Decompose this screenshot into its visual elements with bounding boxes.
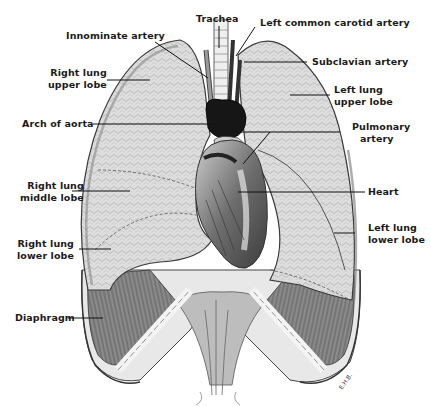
label-left-lung-lower-lobe: Left lung lower lobe <box>368 222 425 246</box>
label-pulmonary-artery: Pulmonary artery <box>352 121 410 145</box>
label-diaphragm: Diaphragm <box>15 312 75 324</box>
artist-signature: E.H.B. <box>337 372 353 391</box>
label-heart: Heart <box>368 186 399 198</box>
label-right-lung-middle-lobe: Right lung middle lobe <box>20 180 84 204</box>
label-trachea: Trachea <box>196 13 238 25</box>
label-subclavian-artery: Subclavian artery <box>312 56 408 68</box>
anatomy-figure: E.H.B. Trachea Left common carotid arter… <box>0 0 431 407</box>
label-right-lung-lower-lobe: Right lung lower lobe <box>17 238 74 262</box>
label-arch-of-aorta: Arch of aorta <box>22 118 94 130</box>
label-left-lung-upper-lobe: Left lung upper lobe <box>334 84 393 108</box>
label-right-lung-upper-lobe: Right lung upper lobe <box>48 67 107 91</box>
label-left-common-carotid-artery: Left common carotid artery <box>260 17 410 29</box>
heart-shape <box>196 140 268 268</box>
label-innominate-artery: Innominate artery <box>66 30 165 42</box>
